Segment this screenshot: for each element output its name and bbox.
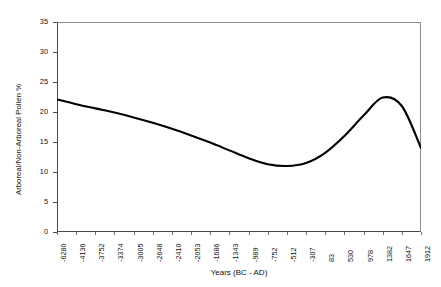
y-tick-label: 0 <box>0 228 48 236</box>
x-tick-mark <box>249 232 250 235</box>
x-tick-mark <box>191 232 192 235</box>
x-tick-mark <box>57 232 58 235</box>
x-tick-mark <box>76 232 77 235</box>
x-tick-mark <box>114 232 115 235</box>
x-tick-mark <box>95 232 96 235</box>
x-tick-mark <box>344 232 345 235</box>
x-tick-label: -307 <box>309 248 316 262</box>
x-tick-mark <box>325 232 326 235</box>
x-tick-label: -6280 <box>60 244 67 262</box>
x-tick-mark <box>153 232 154 235</box>
x-tick-label: -2410 <box>175 244 182 262</box>
x-tick-mark <box>134 232 135 235</box>
y-tick-label: 5 <box>0 198 48 206</box>
x-tick-label: 1382 <box>386 246 393 262</box>
x-tick-label: 1647 <box>405 246 412 262</box>
x-tick-label: -3752 <box>98 244 105 262</box>
x-tick-label: -1686 <box>213 244 220 262</box>
x-tick-label: -3005 <box>137 244 144 262</box>
x-tick-mark <box>229 232 230 235</box>
x-tick-label: 1912 <box>424 246 431 262</box>
x-tick-mark <box>172 232 173 235</box>
x-tick-label: -989 <box>252 248 259 262</box>
x-tick-mark <box>421 232 422 235</box>
x-tick-label: 83 <box>328 254 335 262</box>
x-tick-mark <box>306 232 307 235</box>
x-tick-mark <box>268 232 269 235</box>
y-axis-title: Arboreal/Non-Arboreal Pollen % <box>14 0 28 195</box>
x-tick-label: -2053 <box>194 244 201 262</box>
x-tick-label: 978 <box>367 250 374 262</box>
x-tick-label: -3374 <box>117 244 124 262</box>
pollen-line-chart: Arboreal/Non-Arboreal Pollen % 353025201… <box>0 0 441 287</box>
x-tick-mark <box>287 232 288 235</box>
x-axis-title: Years (BC - AD) <box>57 268 421 277</box>
x-tick-label: -1343 <box>232 244 239 262</box>
x-tick-label: 530 <box>347 250 354 262</box>
x-tick-mark <box>383 232 384 235</box>
data-curve <box>57 22 421 232</box>
x-tick-mark <box>210 232 211 235</box>
x-tick-label: -4136 <box>79 244 86 262</box>
x-tick-mark <box>402 232 403 235</box>
x-tick-label: -752 <box>271 248 278 262</box>
x-tick-mark <box>364 232 365 235</box>
x-tick-label: -512 <box>290 248 297 262</box>
x-tick-label: -2648 <box>156 244 163 262</box>
y-tick-mark <box>53 232 57 233</box>
